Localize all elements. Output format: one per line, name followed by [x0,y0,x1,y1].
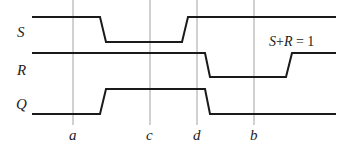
marker-d-label: d [193,127,201,143]
signal-r-label: R [16,62,26,78]
marker-a-label: a [69,127,77,143]
annotation-equals-one: = 1 [292,34,314,49]
marker-c-label: c [146,127,153,143]
annotation-s: S [269,34,276,49]
marker-b-label: b [250,127,258,143]
annotation-plus: + [276,34,284,49]
annotation-r: R [283,34,293,49]
signal-q-waveform [32,89,336,114]
signal-r-waveform [32,53,336,77]
annotation-s-plus-r: S+R = 1 [269,34,314,49]
signal-s-label: S [17,24,25,40]
signal-q-label: Q [16,96,27,112]
timing-diagram: S R Q S+R = 1 a c d b [0,0,349,152]
